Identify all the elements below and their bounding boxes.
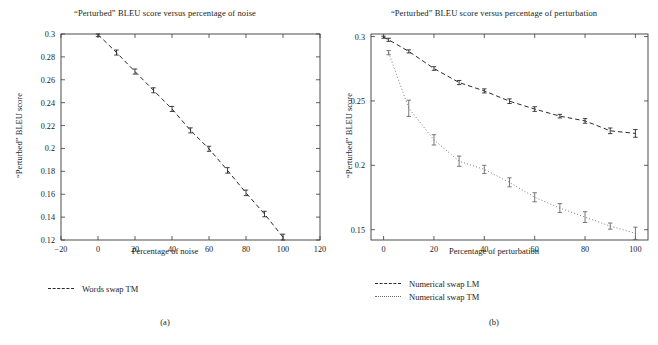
panel-a-yaxis-label: “Perturbed” BLEU score	[14, 93, 24, 178]
svg-text:0.12: 0.12	[41, 236, 55, 245]
panel-b-xaxis-label: Percentage of perturbation	[330, 246, 658, 256]
panel-b-yaxis-label: “Perturbed” BLEU score	[344, 93, 354, 178]
svg-text:0.14: 0.14	[41, 213, 55, 222]
chart-panel-b: “Perturbed” BLEU score versus percentage…	[330, 0, 658, 345]
legend-item: Numerical swap LM	[375, 277, 479, 290]
legend-item: Words swap TM	[48, 282, 138, 295]
figure-container: “Perturbed” BLEU score versus percentage…	[0, 0, 658, 345]
svg-text:0.3: 0.3	[45, 30, 55, 39]
svg-text:0.28: 0.28	[41, 53, 55, 62]
legend-item-label: Numerical swap TM	[409, 292, 479, 302]
chart-panel-a: “Perturbed” BLEU score versus percentage…	[0, 0, 330, 345]
svg-text:0.26: 0.26	[41, 76, 55, 85]
legend-line-icon	[375, 283, 401, 284]
svg-text:0.2: 0.2	[45, 144, 55, 153]
svg-text:0.2: 0.2	[355, 161, 365, 170]
panel-b-legend: Numerical swap LMNumerical swap TM	[375, 277, 479, 303]
panel-b-caption: (b)	[330, 317, 658, 327]
legend-item-label: Numerical swap LM	[409, 279, 479, 289]
svg-text:0.15: 0.15	[351, 226, 365, 235]
svg-text:0.24: 0.24	[41, 99, 55, 108]
svg-text:0.3: 0.3	[355, 33, 365, 42]
panel-a-plot: −200204060801001200.120.140.160.180.20.2…	[0, 0, 330, 260]
svg-text:0.22: 0.22	[41, 122, 55, 131]
svg-text:0.18: 0.18	[41, 167, 55, 176]
legend-item: Numerical swap TM	[375, 290, 479, 303]
svg-text:0.16: 0.16	[41, 190, 55, 199]
legend-line-icon	[48, 288, 74, 289]
panel-a-xaxis-label: Percentage of noise	[0, 246, 330, 256]
legend-line-icon	[375, 296, 401, 297]
legend-item-label: Words swap TM	[82, 284, 138, 294]
panel-a-legend: Words swap TM	[48, 282, 138, 295]
panel-b-plot: 0204060801000.150.20.250.3	[330, 0, 658, 260]
panel-a-caption: (a)	[0, 317, 330, 327]
